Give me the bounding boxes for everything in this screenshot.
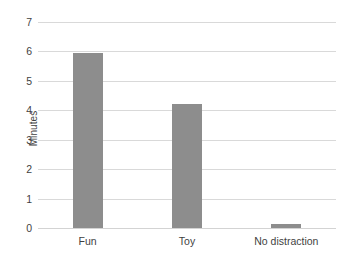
y-tick-label-4: 4	[6, 105, 32, 116]
bar	[271, 224, 301, 228]
x-tick-label: No distraction	[254, 234, 318, 248]
bars-layer	[38, 22, 336, 228]
bar-chart: Minutes 01234567 FunToyNo distraction	[0, 0, 347, 257]
x-tick-label: Fun	[79, 234, 97, 248]
y-tick-label-3: 3	[6, 134, 32, 145]
y-tick-label-1: 1	[6, 193, 32, 204]
y-tick-label-6: 6	[6, 46, 32, 57]
y-tick-label-7: 7	[6, 17, 32, 28]
x-tick-label: Toy	[179, 234, 195, 248]
plot-area	[38, 22, 336, 228]
y-tick-label-5: 5	[6, 76, 32, 87]
y-tick-label-0: 0	[6, 223, 32, 234]
bar	[172, 104, 202, 228]
bar	[73, 53, 103, 228]
y-axis-tick-labels: 01234567	[0, 22, 32, 228]
x-axis-category-labels: FunToyNo distraction	[38, 234, 336, 250]
gridline-0	[38, 228, 336, 229]
y-tick-label-2: 2	[6, 164, 32, 175]
